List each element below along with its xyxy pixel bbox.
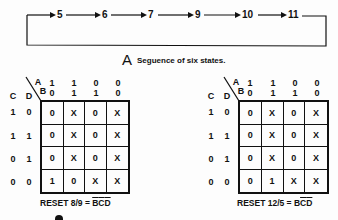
cut-off-caption-glyph: [55, 215, 63, 220]
caption-text: Seguence of six states.: [137, 56, 225, 66]
formula-prefix: RESET 12/5 =: [237, 198, 294, 208]
col-header-a: 0: [111, 78, 125, 88]
kmap-cell: X: [107, 125, 129, 148]
kmap-cell: X: [305, 102, 327, 125]
col-header-b: 0: [310, 88, 324, 98]
kmap-cell: 0: [240, 102, 262, 125]
col-header-a: 0: [288, 78, 302, 88]
kmap-cell: 0: [240, 147, 262, 170]
kmap-cell: 1: [42, 170, 64, 193]
row-label-c: 0: [6, 154, 20, 164]
row-label-c: 1: [204, 131, 218, 141]
row-label-c: 0: [6, 177, 20, 187]
kmap-cell: 0: [42, 102, 64, 125]
kmap-cell: X: [262, 102, 284, 125]
state-label: 5: [57, 9, 63, 21]
formula-prefix: RESET 8/9 =: [40, 198, 92, 208]
kmap-cell: 0: [284, 102, 306, 125]
col-header-a: 0: [89, 78, 103, 88]
row-label-c: 1: [6, 131, 20, 141]
row-label-c: 1: [204, 107, 218, 117]
col-header-b: 0: [111, 88, 125, 98]
kmap-cell: 0: [64, 170, 86, 193]
row-label-d: 0: [220, 177, 234, 187]
kmap-cell: 0: [85, 125, 107, 148]
kmap-cell: 0: [85, 102, 107, 125]
kmap-grid: 0 X 0 X 0 X 0 X 0 X 0 X 0 1 X X: [238, 100, 329, 194]
state-label: 9: [195, 9, 201, 21]
kmap-cell: X: [107, 147, 129, 170]
kmap-cell: X: [305, 125, 327, 148]
col-header-b: 1: [266, 88, 280, 98]
kmap-cell: X: [64, 125, 86, 148]
reset-formula-left: RESET 8/9 = BCD: [40, 198, 111, 208]
col-header-a: 1: [67, 78, 81, 88]
kmap-cell: 1: [262, 170, 284, 193]
kmap-grid: 0 X 0 X 0 X 0 X 0 X 0 X 1 0 X X: [40, 100, 130, 194]
kmap-cell: X: [85, 170, 107, 193]
kmap-cell: X: [305, 147, 327, 170]
col-header-b: 1: [89, 88, 103, 98]
row-label-c: 0: [204, 177, 218, 187]
kmap-cell: X: [305, 170, 327, 193]
reset-formula-right: RESET 12/5 = BCD: [237, 198, 312, 208]
kmap-cell: 0: [240, 125, 262, 148]
col-header-b: 1: [67, 88, 81, 98]
row-header-d: D: [220, 91, 234, 101]
kmap-cell: X: [107, 170, 129, 193]
row-label-c: 1: [6, 107, 20, 117]
col-header-a: 0: [310, 78, 324, 88]
row-label-d: 1: [22, 131, 36, 141]
kmap-cell: 0: [85, 147, 107, 170]
kmap-cell: X: [262, 147, 284, 170]
row-label-d: 0: [22, 107, 36, 117]
sequence-loop-lines: [0, 0, 338, 50]
row-header-c: C: [204, 91, 218, 101]
formula-term-d-bar: D: [105, 198, 111, 208]
kmap-cell: X: [284, 170, 306, 193]
state-label: 6: [102, 9, 108, 21]
row-label-d: 1: [220, 131, 234, 141]
row-header-d: D: [22, 91, 36, 101]
state-label: 10: [242, 9, 253, 21]
kmap-cell: 0: [42, 125, 64, 148]
kmap-cell: X: [64, 102, 86, 125]
state-label: 7: [148, 9, 154, 21]
kmap-cell: 0: [284, 125, 306, 148]
kmap-cell: 0: [42, 147, 64, 170]
caption-letter: A: [122, 52, 132, 68]
kmap-cell: X: [64, 147, 86, 170]
kmap-cell: X: [262, 125, 284, 148]
kmap-cell: 0: [284, 147, 306, 170]
formula-term-d-bar: D: [306, 198, 312, 208]
col-header-a: 1: [45, 78, 59, 88]
col-header-b: 0: [45, 88, 59, 98]
col-header-b: 1: [288, 88, 302, 98]
row-label-d: 0: [220, 107, 234, 117]
state-label: 11: [288, 9, 299, 21]
row-label-c: 0: [204, 154, 218, 164]
row-label-d: 0: [22, 177, 36, 187]
row-label-d: 1: [220, 154, 234, 164]
col-header-b: 0: [243, 88, 257, 98]
row-header-c: C: [6, 91, 20, 101]
kmap-cell: X: [107, 102, 129, 125]
kmap-cell: 0: [240, 170, 262, 193]
col-header-a: 1: [243, 78, 257, 88]
col-header-a: 1: [266, 78, 280, 88]
row-label-d: 1: [22, 154, 36, 164]
